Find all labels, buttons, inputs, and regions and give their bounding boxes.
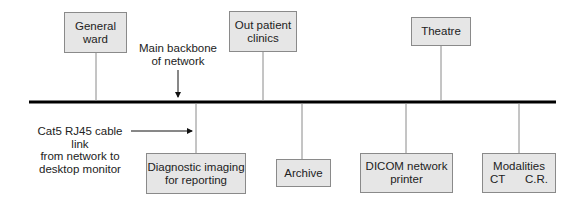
node-label: for reporting xyxy=(165,174,227,187)
node-theatre: Theatre xyxy=(411,17,471,46)
modality-cr: C.R. xyxy=(525,173,548,186)
modalities-sub-row: CT C.R. xyxy=(490,173,548,186)
cable-label-line3: desktop monitor xyxy=(28,163,132,176)
modality-ct: CT xyxy=(490,173,505,186)
node-label: Theatre xyxy=(421,25,461,38)
node-label: Modalities xyxy=(493,160,545,173)
network-diagram: General ward Out patient clinics Theatre… xyxy=(0,0,585,207)
backbone-label: Main backbone of network xyxy=(128,42,228,67)
cable-label-line2: from network to xyxy=(28,150,132,163)
node-label: General xyxy=(75,20,116,33)
cable-label-line1: Cat5 RJ45 cable link xyxy=(28,125,132,150)
backbone-label-line1: Main backbone xyxy=(128,42,228,55)
node-dicom-printer: DICOM network printer xyxy=(360,153,453,193)
node-diagnostic-imaging: Diagnostic imaging for reporting xyxy=(146,153,246,194)
node-modalities: Modalities CT C.R. xyxy=(482,153,556,193)
node-general-ward: General ward xyxy=(64,12,127,53)
node-out-patient-clinics: Out patient clinics xyxy=(229,11,297,52)
node-label: Diagnostic imaging xyxy=(147,161,244,174)
node-label: Archive xyxy=(284,167,322,180)
node-label: ward xyxy=(83,33,108,46)
node-label: Out patient xyxy=(235,19,291,32)
node-archive: Archive xyxy=(276,159,331,187)
backbone-label-line2: of network xyxy=(128,55,228,68)
cable-label: Cat5 RJ45 cable link from network to des… xyxy=(28,125,132,175)
node-label: DICOM network xyxy=(366,160,448,173)
node-label: clinics xyxy=(247,32,278,45)
node-label: printer xyxy=(390,173,423,186)
